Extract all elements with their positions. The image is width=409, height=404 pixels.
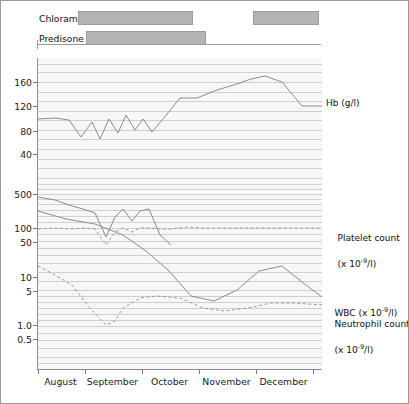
treatment-bar-predisone-1 — [86, 31, 206, 45]
series-neutrophil-line — [38, 266, 322, 325]
series-label-hb: Hb (g/l) — [326, 98, 360, 110]
xtick-4 — [256, 369, 257, 374]
ytick-label-120: 120 — [1, 101, 32, 112]
series-label-neutrophil-line1: Neutrophil count — [334, 319, 409, 329]
xaxis-label-october: October — [141, 376, 198, 387]
treatment-label-predisone: Predisone — [39, 33, 84, 44]
xaxis-label-november: November — [198, 376, 255, 387]
series-platelet-solid — [38, 197, 171, 245]
series-label-neutrophil-units-post: /l) — [364, 345, 373, 355]
ytick-label-5: 5 — [1, 286, 32, 297]
ytick-label-40: 40 — [1, 149, 32, 160]
ytick-label-1p0: 1.0 — [1, 320, 32, 331]
ytick-label-100: 100 — [1, 223, 32, 234]
series-hb-line — [38, 76, 322, 139]
xtick-0 — [38, 369, 39, 374]
xaxis-label-september: September — [84, 376, 141, 387]
series-label-platelet-units-post: /l) — [367, 259, 376, 269]
ytick-label-10: 10 — [1, 272, 32, 283]
ytick-label-160: 160 — [1, 77, 32, 88]
series-label-platelet: Platelet count (x 10-9/l) — [326, 221, 400, 282]
series-label-neutrophil-units-pre: (x 10 — [334, 345, 357, 355]
xtick-5 — [313, 369, 314, 374]
chart-figure: Chlorambucil Predisone — [0, 0, 409, 404]
xtick-3 — [199, 369, 200, 374]
timeline-axis — [37, 44, 321, 45]
series-label-platelet-line1: Platelet count — [337, 233, 399, 243]
series-platelet-dashed — [38, 227, 322, 245]
ytick-label-0p5: 0.5 — [1, 334, 32, 345]
treatment-bar-chlorambucil-2 — [253, 11, 319, 25]
xaxis-label-december: December — [255, 376, 312, 387]
series-wbc-line — [38, 211, 322, 301]
ytick-label-50: 50 — [1, 237, 32, 248]
series-paths — [38, 58, 322, 369]
xtick-2 — [142, 369, 143, 374]
series-label-platelet-units-pre: (x 10 — [337, 259, 360, 269]
xtick-1 — [85, 369, 86, 374]
series-label-neutrophil: Neutrophil count (x 10-9/l) — [323, 307, 409, 368]
timeline-axis-cap — [37, 40, 38, 49]
ytick-label-80: 80 — [1, 126, 32, 137]
plot-area — [37, 58, 322, 370]
xaxis-label-august: August — [37, 376, 84, 387]
ytick-label-500: 500 — [1, 189, 32, 200]
treatment-bar-chlorambucil-1 — [78, 11, 193, 25]
